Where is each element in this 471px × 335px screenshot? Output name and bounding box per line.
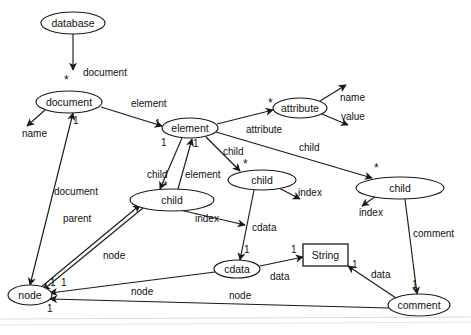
mult-one-node-a: 1 <box>50 277 56 288</box>
edge-label-document-element: element <box>131 98 167 109</box>
edge-element-attribute <box>217 110 273 124</box>
edge-label-database-document: document <box>83 67 127 78</box>
edge-document-name <box>27 110 45 126</box>
edge-label-document-name: name <box>22 128 47 139</box>
edge-child-right-index <box>362 196 376 206</box>
edge-child-left-element <box>178 139 192 189</box>
edge-label-document-node: document <box>54 186 98 197</box>
mult-one-element-child-left: 1 <box>161 137 167 148</box>
node-document[interactable]: document <box>36 91 102 113</box>
node-database[interactable]: database <box>41 12 105 34</box>
mult-star-element-attribute: * <box>268 96 273 110</box>
mult-one-string-comment: 1 <box>352 259 358 270</box>
edge-label-node-parent: parent <box>63 213 92 224</box>
edge-label-attribute-value: value <box>341 111 365 122</box>
node-database-label: database <box>51 17 94 29</box>
mult-one-node-c: 1 <box>47 303 53 314</box>
node-child-left-label: child <box>161 194 183 206</box>
mult-one-document-node: 1 <box>73 115 79 126</box>
er-diagram-canvas: database document element attribute chil… <box>0 0 471 335</box>
edge-cdata-string <box>260 257 303 266</box>
mult-star-element-child-right: * <box>374 161 379 175</box>
edge-label-element-child-mid: child <box>223 146 244 157</box>
node-node-label: node <box>18 289 42 301</box>
edge-child-mid-index <box>279 188 300 199</box>
mult-one-document-element: 1 <box>155 118 161 129</box>
node-child-right-label: child <box>389 182 411 194</box>
edge-label-child-right-comment: comment <box>413 228 454 239</box>
mult-one-child-left-element: 1 <box>193 138 199 149</box>
node-element[interactable]: element <box>162 118 218 138</box>
scan-artifact-line-2 <box>0 322 471 325</box>
node-child-mid[interactable]: child <box>228 170 296 190</box>
node-string-label: String <box>312 249 340 261</box>
node-attribute-label: attribute <box>281 102 319 114</box>
edge-label-child-left-element: element <box>185 169 221 180</box>
edge-label-cdata-string: data <box>270 271 290 282</box>
node-cdata[interactable]: cdata <box>214 260 260 278</box>
node-child-right[interactable]: child <box>356 177 444 199</box>
mult-one-cdata-string: 1 <box>291 244 297 255</box>
edge-label-attribute-name: name <box>340 92 365 103</box>
edge-label-child-left-index: index <box>195 213 219 224</box>
edge-label-cdata-node: node <box>131 286 154 297</box>
mult-star-element-child-left: * <box>163 179 168 193</box>
node-node[interactable]: node <box>8 285 52 305</box>
node-document-label: document <box>46 96 92 108</box>
node-element-label: element <box>171 122 208 134</box>
mult-star-element-child-mid: * <box>243 157 248 171</box>
node-comment-label: comment <box>397 299 440 311</box>
edge-comment-node <box>50 299 389 308</box>
node-comment[interactable]: comment <box>388 294 450 316</box>
edge-label-comment-string-data: data <box>371 269 391 280</box>
edge-label-element-child-right: child <box>299 142 320 153</box>
edge-child-left-node <box>43 208 143 290</box>
edge-document-element <box>101 107 162 126</box>
node-attribute[interactable]: attribute <box>273 98 327 118</box>
edge-label-child-left-node: node <box>103 250 126 261</box>
scan-artifact-lines <box>0 317 471 325</box>
edge-label-comment-node: node <box>229 290 252 301</box>
node-child-mid-label: child <box>251 174 273 186</box>
mult-one-comment: 1 <box>412 279 418 290</box>
node-cdata-label: cdata <box>224 263 250 275</box>
edge-label-element-attribute: attribute <box>246 124 283 135</box>
edge-label-child-mid-index: index <box>298 187 322 198</box>
node-string[interactable]: String <box>303 244 348 266</box>
node-child-left[interactable]: child <box>130 189 214 211</box>
edge-label-child-mid-cdata: cdata <box>252 222 277 233</box>
diagram-svg: database document element attribute chil… <box>0 0 471 335</box>
edge-label-child-right-index: index <box>359 207 383 218</box>
mult-star-database-document: * <box>64 73 69 87</box>
scan-artifact-line-1 <box>0 317 471 319</box>
mult-one-node-b: 1 <box>61 277 67 288</box>
mult-one-cdata: 1 <box>244 244 250 255</box>
